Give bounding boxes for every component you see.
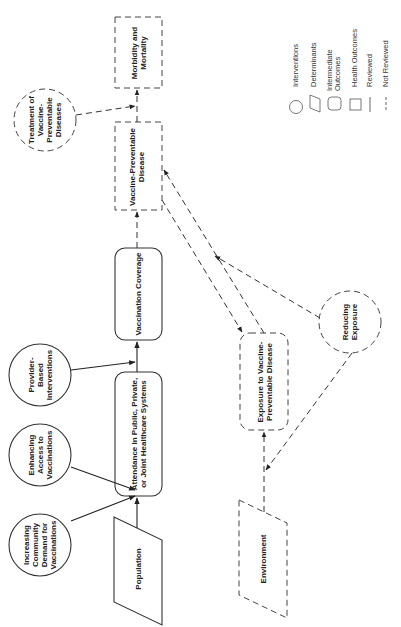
edge-demand-attendance bbox=[71, 496, 135, 521]
legend-health-outcomes: Health Outcomes bbox=[350, 27, 360, 87]
edge-vpd-exposure bbox=[162, 200, 242, 332]
legend-determinants: Determinants bbox=[309, 27, 319, 87]
legend-parallelogram-icon bbox=[310, 95, 320, 112]
legend-intermediate-outcomes: Intermediate Outcomes bbox=[325, 31, 343, 91]
edge-treatment-morbidity bbox=[76, 106, 135, 115]
legend-circle-icon bbox=[290, 101, 303, 114]
legend-not-reviewed: Not Reviewed bbox=[381, 27, 391, 87]
population-label: Population bbox=[130, 534, 146, 604]
exposure-label: Exposure to Vaccine-Preventable Disease bbox=[249, 337, 281, 427]
legend-rounded-rect-icon bbox=[328, 97, 341, 110]
edge-reducing-vpd-link bbox=[215, 256, 320, 318]
edge-exposure-vpd bbox=[164, 170, 264, 333]
environment-label: Environment bbox=[255, 521, 271, 597]
demand-label: Increasing Community Demand for Vaccinat… bbox=[17, 515, 63, 575]
legend-interventions: Interventions bbox=[291, 27, 301, 87]
coverage-label: Vaccination Coverage bbox=[127, 250, 149, 338]
access-label: Enhancing Access to Vaccinations bbox=[22, 426, 58, 484]
vpd-label: Vaccine-Preventable Disease bbox=[125, 124, 149, 210]
legend-reviewed: Reviewed bbox=[365, 27, 375, 87]
reducing-label: Reducing Exposure bbox=[334, 294, 366, 350]
edge-provider-coverage bbox=[71, 362, 135, 370]
legend-rect-icon bbox=[350, 99, 361, 110]
morbidity-label: Morbidity and Mortality bbox=[128, 18, 150, 89]
provider-label: Provider-Based Interventions bbox=[22, 346, 58, 404]
treatment-label: Treatment of Vaccine-Preventable Disease… bbox=[26, 90, 64, 150]
attendance-label: Attendance in Public, Private, or Joint … bbox=[122, 375, 156, 493]
